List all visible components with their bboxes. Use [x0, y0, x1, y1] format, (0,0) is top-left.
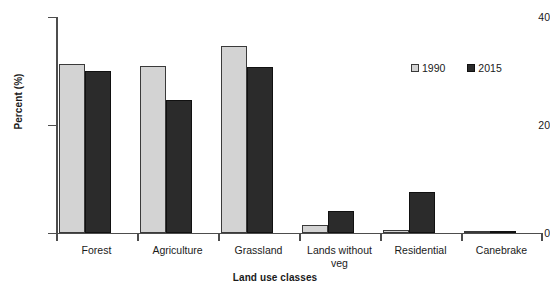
bar-residential-2015: [409, 192, 435, 233]
x-tick-6: [541, 233, 543, 241]
bar-chart: Percent (%) 0 20 40 Forest Agriculture G…: [0, 0, 550, 289]
category-label-grassland: Grassland: [218, 244, 299, 257]
x-tick-5: [461, 233, 463, 241]
x-tick-3: [299, 233, 301, 241]
bar-agriculture-2015: [166, 100, 192, 233]
y-axis-title: Percent (%): [13, 52, 24, 152]
bar-lands-without-veg-1990: [302, 225, 328, 233]
x-tick-0: [56, 233, 58, 241]
legend-label-2015: 2015: [478, 62, 501, 74]
bar-forest-2015: [85, 71, 111, 233]
category-label-residential: Residential: [380, 244, 461, 257]
bar-canebrake-1990: [464, 231, 490, 233]
x-tick-4: [380, 233, 382, 241]
legend: 1990 2015: [411, 62, 502, 74]
legend-label-1990: 1990: [422, 62, 445, 74]
bar-lands-without-veg-2015: [328, 211, 354, 233]
legend-swatch-icon-1990: [411, 64, 419, 72]
legend-item-1990: 1990: [411, 62, 445, 74]
bar-forest-1990: [59, 64, 85, 233]
bar-agriculture-1990: [140, 66, 166, 233]
legend-swatch-icon-2015: [467, 64, 475, 72]
x-tick-1: [137, 233, 139, 241]
x-tick-2: [218, 233, 220, 241]
category-label-canebrake: Canebrake: [461, 244, 542, 257]
bar-residential-1990: [383, 230, 409, 233]
bars-layer: [57, 17, 541, 233]
x-axis-title: Land use classes: [0, 272, 550, 283]
category-label-forest: Forest: [56, 244, 137, 257]
bar-canebrake-2015: [490, 231, 516, 233]
category-label-agriculture: Agriculture: [137, 244, 218, 257]
bar-grassland-1990: [221, 46, 247, 233]
y-tick-0: [48, 233, 56, 235]
category-label-lands-without-veg: Lands without veg: [299, 244, 380, 269]
legend-item-2015: 2015: [467, 62, 501, 74]
bar-grassland-2015: [247, 67, 273, 233]
y-tick-20: [48, 125, 56, 127]
y-tick-40: [48, 17, 56, 19]
